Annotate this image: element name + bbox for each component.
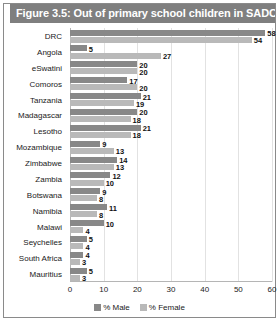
bar-female <box>70 195 97 201</box>
bar-male <box>70 93 141 99</box>
bar-male <box>70 45 87 51</box>
figure-title: Figure 3.5: Out of primary school childr… <box>10 4 275 23</box>
category-label: Zambia <box>35 175 62 184</box>
bar-female <box>70 132 131 138</box>
bar-rows: 5854527202017202119201821189131413121098… <box>70 28 272 282</box>
bar-female <box>70 227 83 233</box>
x-axis-tick-labels: 0102030405060 <box>70 285 272 297</box>
bar-female <box>70 148 114 154</box>
bar-row: 1720 <box>70 76 272 92</box>
category-label: Seychelles <box>23 238 62 247</box>
bar-row: 527 <box>70 44 272 60</box>
category-label: Comoros <box>30 80 62 89</box>
legend-label: % Female <box>149 303 185 312</box>
bar-value-label: 11 <box>109 205 117 212</box>
category-axis-labels: DRCAngolaeSwatiniComorosTanzaniaMadagasc… <box>0 28 66 282</box>
bar-value-label: 21 <box>143 125 151 132</box>
bar-male <box>70 204 107 210</box>
caption-sliver <box>6 320 274 326</box>
category-label: Lesotho <box>34 127 62 136</box>
plot-area: 5854527202017202119201821189131413121098… <box>70 28 272 282</box>
bar-row: 2118 <box>70 123 272 139</box>
category-label: Botswana <box>27 191 62 200</box>
bar-row: 43 <box>70 250 272 266</box>
gridline-60 <box>272 28 273 282</box>
bar-male <box>70 109 137 115</box>
bar-female <box>70 116 131 122</box>
x-tick-10: 10 <box>99 285 108 294</box>
bar-value-label: 3 <box>82 275 86 282</box>
category-label: Namibia <box>33 207 62 216</box>
legend-swatch-icon <box>140 304 147 311</box>
bar-female <box>70 37 252 43</box>
bar-row: 2020 <box>70 60 272 76</box>
bar-male <box>70 268 87 274</box>
chart-legend: % Male% Female <box>0 303 279 312</box>
bar-male <box>70 157 117 163</box>
bar-female <box>70 53 161 59</box>
bar-value-label: 5 <box>89 268 93 275</box>
legend-item: % Female <box>140 303 185 312</box>
x-tick-60: 60 <box>268 285 277 294</box>
legend-item: % Male <box>94 303 130 312</box>
bar-male <box>70 236 87 242</box>
bar-female <box>70 243 83 249</box>
category-label: South Africa <box>19 254 62 263</box>
bar-male <box>70 172 110 178</box>
bar-female <box>70 164 114 170</box>
x-tick-40: 40 <box>200 285 209 294</box>
bar-row: 5854 <box>70 28 272 44</box>
category-label: Mozambique <box>16 143 62 152</box>
bar-male <box>70 141 100 147</box>
legend-swatch-icon <box>94 304 101 311</box>
bar-row: 1413 <box>70 155 272 171</box>
bar-male <box>70 61 137 67</box>
bar-value-label: 4 <box>85 252 89 259</box>
bar-female <box>70 84 137 90</box>
legend-label: % Male <box>103 303 130 312</box>
category-label: DRC <box>45 32 62 41</box>
category-label: Mauritius <box>30 270 62 279</box>
bar-row: 104 <box>70 219 272 235</box>
x-tick-20: 20 <box>133 285 142 294</box>
bar-female <box>70 211 97 217</box>
category-label: Tanzania <box>30 96 62 105</box>
bar-row: 54 <box>70 234 272 250</box>
bar-row: 1210 <box>70 171 272 187</box>
category-label: eSwatini <box>32 64 62 73</box>
bar-female <box>70 180 104 186</box>
category-label: Madagascar <box>18 111 62 120</box>
bar-row: 2018 <box>70 107 272 123</box>
x-tick-0: 0 <box>68 285 72 294</box>
bar-row: 2119 <box>70 92 272 108</box>
category-label: Zimbabwe <box>25 159 62 168</box>
bar-row: 53 <box>70 266 272 282</box>
bar-male <box>70 125 141 131</box>
bar-male <box>70 77 127 83</box>
bar-value-label: 10 <box>106 221 114 228</box>
bar-row: 118 <box>70 203 272 219</box>
category-label: Malawi <box>37 223 62 232</box>
bar-row: 913 <box>70 139 272 155</box>
bar-female <box>70 68 137 74</box>
bar-female <box>70 275 80 281</box>
bar-value-label: 58 <box>267 30 275 37</box>
bar-male <box>70 220 104 226</box>
bar-male <box>70 30 265 36</box>
bar-female <box>70 259 80 265</box>
figure-container: Figure 3.5: Out of primary school childr… <box>0 0 279 326</box>
x-tick-50: 50 <box>234 285 243 294</box>
bar-male <box>70 188 100 194</box>
bar-row: 98 <box>70 187 272 203</box>
category-label: Angola <box>37 48 62 57</box>
bar-female <box>70 100 134 106</box>
x-tick-30: 30 <box>167 285 176 294</box>
bar-male <box>70 252 83 258</box>
